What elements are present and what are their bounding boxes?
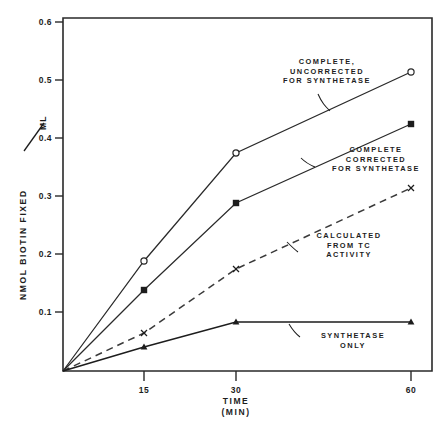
data-point-uncorrected-30 — [233, 150, 239, 156]
annotation-uncorrected-line3: FOR SYNTHETASE — [272, 76, 382, 86]
annotation-calculated-line1: CALCULATED — [303, 231, 395, 241]
x-axis-title: TIME (MIN) — [221, 396, 250, 418]
leader-line-corrected — [301, 158, 315, 167]
annotation-uncorrected-line1: COMPLETE, — [272, 57, 382, 67]
y-tick-label-0.2: 0.2 — [26, 249, 52, 259]
y-tick-label-0.6: 0.6 — [26, 17, 52, 27]
x-axis-title-main: TIME — [221, 396, 250, 407]
x-tick-label-30: 30 — [231, 385, 241, 395]
data-point-corrected-15 — [141, 287, 147, 293]
annotation-complete-corrected: COMPLETE CORRECTED FOR SYNTHETASE — [320, 145, 432, 174]
annotation-complete-uncorrected: COMPLETE, UNCORRECTED FOR SYNTHETASE — [272, 57, 382, 86]
x-axis-ticks — [144, 371, 411, 381]
annotation-calculated-line2: FROM TC — [303, 241, 395, 251]
data-point-calculated-60 — [408, 185, 414, 191]
y-axis-ticks — [55, 22, 63, 312]
data-point-uncorrected-15 — [141, 258, 147, 264]
annotation-synthonly-line2: ONLY — [305, 341, 401, 351]
y-tick-label-0.5: 0.5 — [26, 75, 52, 85]
data-point-uncorrected-60 — [408, 69, 414, 75]
data-point-corrected-60 — [408, 121, 414, 127]
leader-line-synthetase-only — [289, 324, 300, 337]
y-tick-label-0.1: 0.1 — [26, 307, 52, 317]
data-point-corrected-30 — [233, 200, 239, 206]
leader-line-calculated — [287, 242, 298, 252]
y-tick-label-0.3: 0.3 — [26, 191, 52, 201]
data-point-calculated-30 — [233, 266, 239, 272]
x-tick-label-15: 15 — [139, 385, 149, 395]
data-point-calculated-15 — [141, 330, 147, 336]
y-tick-label-0.4: 0.4 — [26, 133, 52, 143]
leader-line-uncorrected — [318, 94, 330, 111]
annotation-synthonly-line1: SYNTHETASE — [305, 331, 401, 341]
x-tick-label-60: 60 — [406, 385, 416, 395]
annotation-corrected-line3: FOR SYNTHETASE — [320, 164, 432, 174]
series-complete-uncorrected — [63, 69, 414, 371]
annotation-corrected-line2: CORRECTED — [320, 155, 432, 165]
x-axis-title-units: (MIN) — [221, 407, 250, 418]
annotation-leaders — [287, 94, 330, 337]
annotation-calculated-line3: ACTIVITY — [303, 250, 395, 260]
annotation-calculated-tc: CALCULATED FROM TC ACTIVITY — [303, 231, 395, 260]
figure-root: 0.6 0.5 0.4 0.3 0.2 0.1 15 30 60 TIME (M… — [0, 0, 443, 426]
annotation-uncorrected-line2: UNCORRECTED — [272, 67, 382, 77]
series-line-complete-uncorrected — [63, 72, 411, 371]
annotation-corrected-line1: COMPLETE — [320, 145, 432, 155]
annotation-synthetase-only: SYNTHETASE ONLY — [305, 331, 401, 350]
